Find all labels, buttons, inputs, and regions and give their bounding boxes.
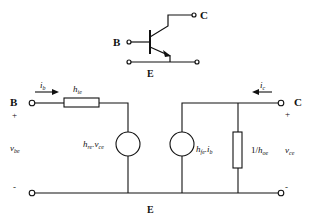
- hie-to-source-wire: [99, 103, 128, 132]
- output-plus-sign: +: [285, 109, 290, 119]
- output-top-wire: [182, 103, 278, 132]
- output-terminal-label: C: [294, 96, 302, 108]
- output-common-terminal: [278, 190, 284, 196]
- bjt-transistor-symbol: [127, 13, 199, 64]
- vce-label: vce: [285, 145, 295, 156]
- vbe-label: vbe: [10, 143, 20, 154]
- ib-label: ib: [40, 80, 46, 91]
- transistor-emitter-label: E: [147, 68, 154, 79]
- resistor-hoe: [233, 132, 242, 168]
- input-terminal-b: [29, 100, 35, 106]
- equivalent-circuit: [29, 89, 284, 196]
- current-source-hfe: [170, 132, 194, 156]
- ic-label: ic: [260, 80, 266, 91]
- common-emitter-label: E: [147, 204, 154, 215]
- input-plus-sign: +: [12, 110, 17, 120]
- ic-arrow-icon: [252, 89, 259, 95]
- output-terminal-c: [278, 100, 284, 106]
- hre-vce-label: hre.vce: [83, 139, 104, 150]
- voltage-source-hre: [116, 132, 140, 156]
- hie-label: hie: [73, 84, 82, 95]
- emitter-right-terminal: [195, 60, 199, 64]
- input-common-terminal: [29, 190, 35, 196]
- base-terminal: [127, 40, 131, 44]
- collector-lead: [150, 15, 192, 37]
- input-terminal-label: B: [10, 96, 18, 108]
- hybrid-model-diagram: B C E B + - ib hie vbe: [0, 0, 311, 220]
- resistor-hie: [64, 98, 99, 107]
- hfe-ib-label: hfe.ib: [196, 144, 213, 155]
- transistor-collector-label: C: [200, 9, 208, 21]
- transistor-base-label: B: [113, 36, 121, 48]
- output-minus-sign: -: [285, 182, 288, 192]
- emitter-arrow-icon: [163, 50, 171, 57]
- emitter-left-terminal: [127, 60, 131, 64]
- ib-arrow-icon: [52, 89, 59, 95]
- hoe-label: 1/hoe: [251, 145, 269, 156]
- collector-terminal: [192, 13, 196, 17]
- input-minus-sign: -: [13, 182, 16, 192]
